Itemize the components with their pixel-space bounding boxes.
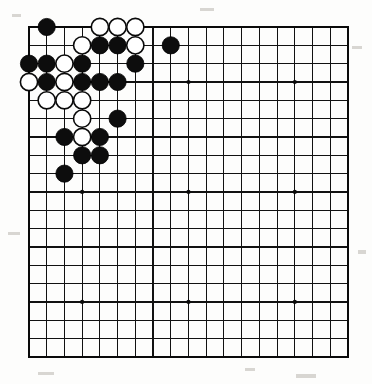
paper-speck: [8, 232, 20, 235]
star-point: [80, 300, 84, 304]
stone-white[interactable]: [56, 92, 73, 109]
stone-white[interactable]: [109, 18, 126, 35]
stone-white[interactable]: [74, 128, 91, 145]
paper-speck: [200, 8, 214, 11]
stone-white[interactable]: [56, 55, 73, 72]
screenshot-root: [0, 0, 372, 384]
go-board-canvas[interactable]: [0, 0, 372, 384]
paper-speck: [358, 250, 366, 254]
star-point: [186, 190, 190, 194]
stone-black[interactable]: [38, 73, 55, 90]
paper-speck: [296, 374, 316, 378]
star-point: [186, 80, 190, 84]
paper-speck: [38, 372, 54, 375]
stone-black[interactable]: [91, 37, 108, 54]
stone-white[interactable]: [127, 37, 144, 54]
stone-black[interactable]: [91, 128, 108, 145]
stone-black[interactable]: [38, 55, 55, 72]
stone-black[interactable]: [20, 55, 37, 72]
stone-white[interactable]: [74, 37, 91, 54]
stone-black[interactable]: [56, 165, 73, 182]
paper-speck: [245, 368, 255, 371]
stone-black[interactable]: [162, 37, 179, 54]
stone-black[interactable]: [109, 73, 126, 90]
stone-white[interactable]: [56, 73, 73, 90]
stone-black[interactable]: [74, 73, 91, 90]
stone-white[interactable]: [127, 18, 144, 35]
stone-black[interactable]: [91, 73, 108, 90]
stone-black[interactable]: [91, 147, 108, 164]
stone-black[interactable]: [74, 147, 91, 164]
stone-white[interactable]: [74, 92, 91, 109]
star-point: [80, 190, 84, 194]
stone-black[interactable]: [38, 18, 55, 35]
stone-black[interactable]: [109, 110, 126, 127]
star-point: [186, 300, 190, 304]
stone-white[interactable]: [20, 73, 37, 90]
stone-white[interactable]: [74, 110, 91, 127]
stone-black[interactable]: [109, 37, 126, 54]
stone-black[interactable]: [56, 128, 73, 145]
stone-white[interactable]: [91, 18, 108, 35]
star-point: [293, 80, 297, 84]
paper-speck: [12, 14, 21, 17]
stone-black[interactable]: [127, 55, 144, 72]
go-board-container[interactable]: [0, 0, 372, 384]
star-point: [293, 190, 297, 194]
paper-speck: [352, 46, 362, 49]
stone-black[interactable]: [74, 55, 91, 72]
stone-white[interactable]: [38, 92, 55, 109]
star-point: [293, 300, 297, 304]
